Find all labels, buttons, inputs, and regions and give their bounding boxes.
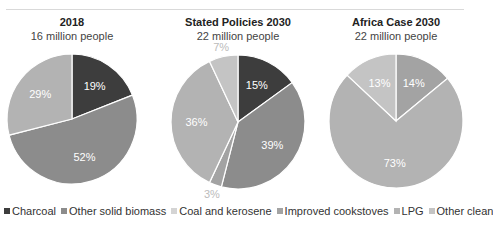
legend-swatch-icon [394, 208, 400, 214]
legend-label: Improved cookstoves [285, 205, 389, 217]
slice-label: 29% [29, 88, 51, 100]
legend-item: Other solid biomass [61, 205, 166, 217]
slice-label: 7% [213, 41, 229, 53]
legend-label: Coal and kerosene [179, 205, 271, 217]
legend-swatch-icon [429, 208, 435, 214]
legend-swatch-icon [171, 208, 177, 214]
slice-label: 73% [384, 157, 406, 169]
legend-label: LPG [402, 205, 424, 217]
slice-label: 19% [84, 80, 106, 92]
legend-item: Other clean [429, 205, 493, 217]
pie-2018: 19%52%29% [7, 54, 137, 184]
slice-label: 52% [73, 151, 95, 163]
slice-label: 14% [403, 77, 425, 89]
legend-item: LPG [394, 205, 424, 217]
legend-item: Coal and kerosene [171, 205, 271, 217]
pie-stated-policies-2030: 15%39%3%36%7% [171, 41, 305, 201]
legend-label: Other solid biomass [69, 205, 166, 217]
slice-label: 36% [185, 116, 207, 128]
legend-item: Improved cookstoves [277, 205, 389, 217]
pie-africa-case-2030: 14%73%13% [329, 54, 463, 188]
legend: CharcoalOther solid biomassCoal and kero… [4, 205, 493, 217]
slice-label: 15% [246, 79, 268, 91]
slice-label: 39% [261, 139, 283, 151]
legend-swatch-icon [4, 208, 10, 214]
legend-label: Charcoal [12, 205, 56, 217]
legend-label: Other clean [437, 205, 493, 217]
legend-item: Charcoal [4, 205, 56, 217]
slice-label: 3% [204, 188, 220, 200]
legend-swatch-icon [61, 208, 67, 214]
slice-label: 13% [368, 77, 390, 89]
legend-swatch-icon [277, 208, 283, 214]
